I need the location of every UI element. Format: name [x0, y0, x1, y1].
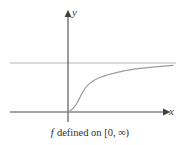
- function-graph-figure: y x f defined on [0, ∞): [0, 0, 180, 145]
- y-axis-arrowhead-icon: [65, 10, 72, 17]
- figure-caption: f defined on [0, ∞): [0, 127, 180, 140]
- function-curve: [68, 65, 173, 112]
- graph-canvas: [0, 0, 180, 145]
- x-axis-label: x: [169, 106, 174, 117]
- y-axis-label: y: [72, 7, 77, 18]
- caption-text: defined on [0, ∞): [54, 127, 129, 138]
